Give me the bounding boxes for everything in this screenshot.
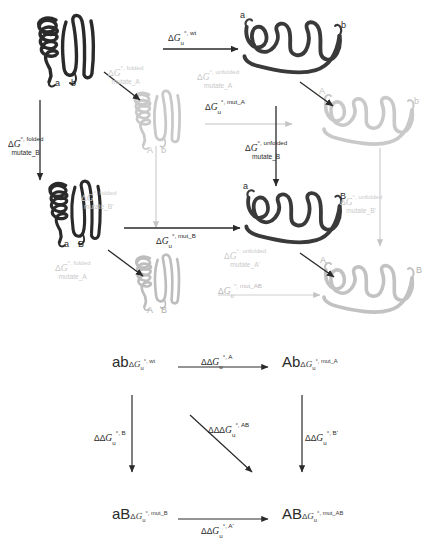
terminus-label-unfolded-muta-A: A bbox=[319, 86, 325, 96]
terminus-label-unfolded-wt-a: a bbox=[240, 10, 245, 20]
structure-folded-mut-ab bbox=[136, 255, 179, 310]
terminus-label-unfolded-muta-b: b bbox=[414, 96, 419, 106]
terminus-label-folded-mutab-B: B bbox=[161, 305, 167, 315]
terminus-label-folded-mutab-A: A bbox=[147, 305, 153, 315]
structure-folded-wt bbox=[39, 15, 94, 86]
label-cycle-edge-bottom: ΔΔGu°, A' bbox=[201, 521, 234, 540]
label-mutate-b-unfolded: ΔG°, unfolded mutate_B bbox=[245, 138, 287, 161]
label-unfolding-wt: ΔGu°, wt bbox=[168, 28, 196, 47]
terminus-label-folded-muta-b: b bbox=[161, 145, 166, 155]
label-mutate-b-folded: ΔG°, folded mutate_B bbox=[8, 134, 43, 157]
terminus-label-folded-mutb-a: a bbox=[64, 239, 69, 249]
cycle-node-AB: ABΔGu°, mut_AB bbox=[282, 505, 343, 523]
terminus-label-folded-wt-a: a bbox=[55, 78, 60, 88]
label-unfolding-mut-b: ΔGu°, mut_B bbox=[156, 231, 196, 250]
label-mutate-a-prime-unfolded: ΔG°, unfolded mutate_A' bbox=[224, 246, 266, 269]
arrow-mutate-a-prime-unfolded bbox=[300, 253, 334, 277]
terminus-label-unfolded-wt-b: b bbox=[341, 20, 346, 30]
label-mutate-b-prime-unfolded: ΔG°, unfolded mutate_B' bbox=[340, 192, 382, 215]
structure-unfolded-mut-b bbox=[246, 190, 341, 242]
cycle-node-Ab: AbΔGu°, mut_A bbox=[282, 353, 338, 371]
terminus-label-folded-mutb-B: B bbox=[78, 239, 84, 249]
cycle-node-aB: aBΔGu°, mut_B bbox=[112, 505, 168, 523]
structure-folded-mut-a bbox=[135, 91, 180, 149]
terminus-label-folded-wt-b: b bbox=[71, 78, 76, 88]
figure-canvas: a b A b a B A B a b A b a B A B ΔGu°, wt… bbox=[0, 0, 444, 560]
terminus-label-unfolded-mutab-A: A bbox=[320, 255, 326, 265]
structure-unfolded-mut-a bbox=[324, 95, 413, 144]
label-unfolding-mut-ab: ΔGu°, mut_AB bbox=[218, 281, 262, 300]
label-mutate-a-unfolded: ΔG°, unfolded mutate_A bbox=[197, 67, 239, 90]
label-mutate-b-prime-folded: ΔG°, folded mutate_B' bbox=[81, 188, 116, 211]
arrow-mutate-a-unfolded bbox=[300, 82, 333, 106]
label-cycle-edge-diagonal: ΔΔΔGu°, AB bbox=[208, 420, 249, 439]
label-unfolding-mut-a: ΔGu°, mut_A bbox=[205, 97, 245, 116]
terminus-label-unfolded-mutab-B: B bbox=[416, 265, 422, 275]
terminus-label-folded-muta-A: A bbox=[147, 145, 153, 155]
terminus-label-unfolded-mutb-a: a bbox=[243, 181, 248, 191]
label-cycle-edge-right: ΔΔGu°, B' bbox=[305, 428, 338, 447]
label-cycle-edge-top: ΔΔGu°, A bbox=[201, 352, 232, 371]
cycle-node-ab: abΔGu°, wt bbox=[112, 353, 155, 371]
structure-unfolded-wt bbox=[244, 19, 341, 72]
label-cycle-edge-left: ΔΔGu°, B bbox=[94, 428, 126, 447]
label-mutate-a-folded: ΔG°, folded mutate_A bbox=[108, 63, 143, 86]
label-mutate-a-prime-folded: ΔG°, folded mutate_A bbox=[55, 258, 90, 281]
structure-unfolded-mut-ab bbox=[324, 263, 413, 312]
